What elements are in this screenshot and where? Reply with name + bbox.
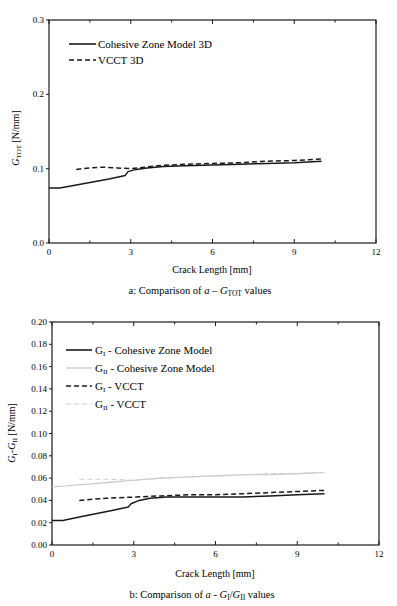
y-tick-label: 0.12 <box>31 406 47 416</box>
x-tick-label: 6 <box>210 247 215 257</box>
x-tick-label: 0 <box>47 247 52 257</box>
y-tick-label: 0.1 <box>33 164 44 174</box>
y-tick-label: 0.04 <box>31 495 47 505</box>
legend-b: GI - Cohesive Zone Model GII - Cohesive … <box>66 344 215 412</box>
x-axis-title-a: Crack Length [mm] <box>172 264 251 275</box>
y-axis-title-b: GI-GII [N/mm] <box>6 403 19 463</box>
legend-label-gi-czm: GI - Cohesive Zone Model <box>95 344 212 358</box>
legend-label-gii-czm: GII - Cohesive Zone Model <box>95 362 215 376</box>
x-tick-label: 6 <box>213 549 218 559</box>
y-tick-label: 0.10 <box>31 429 47 439</box>
caption-b: b: Comparison of a - GI/GII values <box>129 589 274 602</box>
chart-a: 0369120.00.10.20.3 Cohesive Zone Model 3… <box>10 15 381 298</box>
chart-b: 0369120.000.020.040.060.080.100.120.140.… <box>6 317 384 602</box>
y-tick-label: 0.3 <box>33 15 45 25</box>
series-line-b-0 <box>52 494 325 521</box>
series-b <box>52 473 325 521</box>
x-tick-label: 3 <box>132 549 137 559</box>
x-tick-label: 9 <box>295 549 300 559</box>
legend-a: Cohesive Zone Model 3D VCCT 3D <box>69 38 212 66</box>
x-tick-label: 12 <box>375 549 384 559</box>
legend-label-gi-vcct: GI - VCCT <box>95 380 144 394</box>
caption-a: a: Comparison of a – GTOT values <box>129 285 272 298</box>
y-tick-label: 0.20 <box>31 317 47 327</box>
legend-label-gii-vcct: GII - VCCT <box>95 398 146 412</box>
y-axis-title-a: GTOT [N/mm] <box>10 110 23 165</box>
y-tick-label: 0.02 <box>31 518 47 528</box>
ticks-a: 0369120.00.10.20.3 <box>33 15 381 257</box>
series-line-b-3 <box>79 473 324 481</box>
y-tick-label: 0.0 <box>33 238 45 248</box>
x-axis-title-b: Crack Length [mm] <box>175 568 254 579</box>
figure: 0369120.00.10.20.3 Cohesive Zone Model 3… <box>0 0 397 606</box>
y-tick-label: 0.14 <box>31 384 47 394</box>
legend-label-czm3d: Cohesive Zone Model 3D <box>98 38 212 50</box>
x-tick-label: 12 <box>372 247 381 257</box>
y-tick-label: 0.2 <box>33 89 44 99</box>
x-tick-label: 3 <box>129 247 134 257</box>
y-tick-label: 0.18 <box>31 339 47 349</box>
series-a <box>49 159 322 188</box>
y-tick-label: 0.06 <box>31 473 47 483</box>
series-line-a-1 <box>76 159 321 169</box>
x-tick-label: 0 <box>50 549 55 559</box>
y-tick-label: 0.00 <box>31 540 47 550</box>
series-line-b-1 <box>52 473 325 488</box>
legend-label-vcct3d: VCCT 3D <box>98 54 143 66</box>
y-tick-label: 0.08 <box>31 451 47 461</box>
x-tick-label: 9 <box>292 247 297 257</box>
y-tick-label: 0.16 <box>31 362 47 372</box>
series-line-a-0 <box>49 161 322 188</box>
